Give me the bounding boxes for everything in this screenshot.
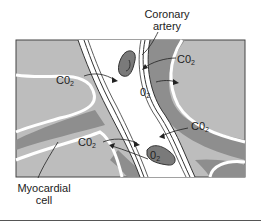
co2-label: C02 <box>177 53 195 69</box>
co2-label: C02 <box>78 136 96 152</box>
coronary-artery-label: Coronary artery <box>142 8 192 32</box>
o2-label: 02 <box>150 149 160 165</box>
o2-label: 02 <box>140 86 150 102</box>
myocardial-cell-label: Myocardial cell <box>14 182 74 206</box>
bottom-divider <box>0 220 261 221</box>
co2-label: C02 <box>191 120 209 136</box>
co2-label: C02 <box>56 74 74 90</box>
